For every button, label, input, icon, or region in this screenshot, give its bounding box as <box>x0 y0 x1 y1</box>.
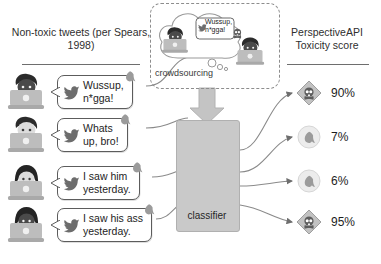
score-row: 7% <box>296 124 348 150</box>
twitter-bird-icon <box>63 127 80 143</box>
twitter-bird-icon <box>63 217 80 233</box>
skull-toxic-icon <box>296 80 322 106</box>
score-row: 90% <box>296 80 355 106</box>
bubble-tail <box>51 130 60 140</box>
classifier-label: classifier <box>176 210 238 221</box>
tweet-text: Whats up, bro! <box>83 122 119 147</box>
twitter-bird-icon <box>63 84 80 100</box>
dove-icon <box>124 70 136 83</box>
dove-icon <box>143 203 155 216</box>
tweet-row: Wussup, n*gga! <box>8 72 133 112</box>
diagram-canvas: Non-toxic tweets (per Spears, 1998) Pers… <box>0 0 381 264</box>
tweet-text: Wussup, n*gga! <box>83 79 124 104</box>
score-row: 95% <box>296 209 355 235</box>
score-row: 6% <box>296 168 348 194</box>
twitter-bird-icon <box>63 175 80 191</box>
bubble-tail <box>51 220 60 230</box>
score-value: 7% <box>331 130 348 144</box>
crowdsourcing-bubble-text: Wussup, n*gga! <box>205 18 251 35</box>
down-arrow-icon <box>190 88 224 124</box>
tweet-text: I saw his ass yesterday. <box>83 212 143 237</box>
dove-icon <box>131 161 143 174</box>
avatar <box>8 205 48 245</box>
tweet-text: I saw him yesterday. <box>83 170 131 195</box>
dove-nontoxic-icon <box>296 124 322 150</box>
tweet-bubble[interactable]: Whats up, bro! <box>57 118 128 152</box>
score-value: 6% <box>331 174 348 188</box>
skull-toxic-icon <box>296 209 322 235</box>
avatar <box>8 72 48 112</box>
bubble-tail <box>51 178 60 188</box>
avatar <box>8 115 48 155</box>
crowdsourcing-label: crowdsourcing <box>155 68 213 78</box>
tweet-bubble[interactable]: Wussup, n*gga! <box>57 75 133 109</box>
tweet-bubble[interactable]: I saw his ass yesterday. <box>57 208 152 242</box>
tweet-bubble[interactable]: I saw him yesterday. <box>57 166 140 200</box>
dove-icon <box>119 113 131 126</box>
score-value: 95% <box>331 215 355 229</box>
tweet-row: I saw his ass yesterday. <box>8 205 152 245</box>
bubble-tail <box>51 87 60 97</box>
score-value: 90% <box>331 86 355 100</box>
tweet-row: I saw him yesterday. <box>8 163 140 203</box>
avatar <box>8 163 48 203</box>
dove-nontoxic-icon <box>296 168 322 194</box>
tweet-row: Whats up, bro! <box>8 115 128 155</box>
